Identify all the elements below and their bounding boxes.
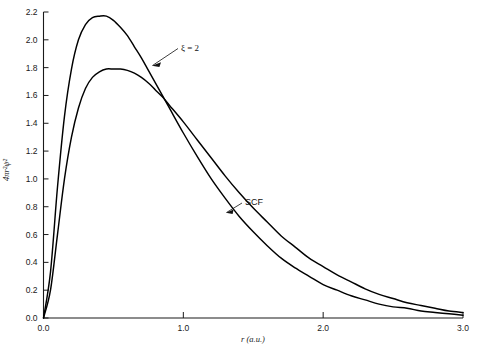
x-axis-ticks <box>44 312 464 318</box>
annotation-label-xi-2: ξ = 2 <box>181 43 199 53</box>
annotation-label-scf: SCF <box>245 197 264 207</box>
y-tick-label: 1.8 <box>26 63 38 73</box>
y-tick-label: 0.8 <box>26 202 38 212</box>
figure-container: 0.00.20.40.60.81.01.21.41.61.82.02.2 0.0… <box>0 0 479 353</box>
curve-xi-2 <box>44 16 464 318</box>
leader-line-xi-2 <box>153 49 179 66</box>
x-tick-label: 0.0 <box>38 323 50 333</box>
y-tick-label: 0.2 <box>26 285 38 295</box>
y-tick-label: 2.2 <box>26 7 38 17</box>
y-tick-label: 1.6 <box>26 90 38 100</box>
annotation-scf: SCF <box>226 197 264 214</box>
x-tick-label: 1.0 <box>177 323 189 333</box>
x-tick-label: 3.0 <box>457 323 469 333</box>
annotation-xi-2: ξ = 2 <box>152 43 199 67</box>
y-tick-label: 1.2 <box>26 146 38 156</box>
x-axis-title: r (a.u.) <box>241 334 265 344</box>
y-tick-label: 0.4 <box>26 257 38 267</box>
y-axis-title: 4πr²ψ² <box>1 158 11 181</box>
y-axis-ticks <box>44 12 49 318</box>
y-axis-tick-labels: 0.00.20.40.60.81.01.21.41.61.82.02.2 <box>26 7 38 323</box>
curve-scf <box>44 69 464 318</box>
x-tick-label: 2.0 <box>317 323 329 333</box>
x-axis-tick-labels: 0.01.02.03.0 <box>38 323 470 333</box>
y-tick-label: 1.0 <box>26 174 38 184</box>
y-tick-label: 0.6 <box>26 230 38 240</box>
y-tick-label: 0.0 <box>26 313 38 323</box>
radial-distribution-plot: 0.00.20.40.60.81.01.21.41.61.82.02.2 0.0… <box>0 0 479 353</box>
axes-group <box>44 12 464 318</box>
y-tick-label: 2.0 <box>26 35 38 45</box>
y-tick-label: 1.4 <box>26 118 38 128</box>
